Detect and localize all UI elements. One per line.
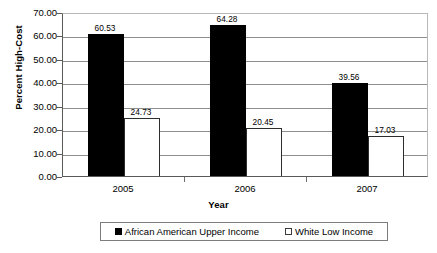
bar-value-label: 20.45: [235, 118, 291, 126]
plot-area: [62, 13, 428, 177]
bar-value-label: 39.56: [321, 73, 377, 81]
y-tick-label: 0.00: [11, 172, 57, 182]
bar-2007-series-1: [368, 136, 404, 176]
bar-value-label: 60.53: [77, 24, 133, 32]
y-tick-label: 30.00: [11, 102, 57, 112]
x-category-label-2005: 2005: [62, 183, 184, 194]
x-category-label-2007: 2007: [306, 183, 428, 194]
bar-2006-series-0: [210, 25, 246, 176]
x-axis-title: Year: [0, 199, 437, 210]
y-tick-label: 60.00: [11, 31, 57, 41]
legend-entry-0: African American Upper Income: [115, 226, 259, 237]
y-tick-label: 70.00: [11, 8, 57, 18]
bar-value-label: 64.28: [199, 15, 255, 23]
legend-label: African American Upper Income: [125, 226, 259, 237]
bar-2006-series-1: [246, 128, 282, 176]
x-category-label-2006: 2006: [184, 183, 306, 194]
x-separator-tick: [306, 177, 307, 182]
y-tick-label: 40.00: [11, 78, 57, 88]
bar-2005-series-1: [124, 118, 160, 176]
x-separator-tick: [184, 177, 185, 182]
legend-entry-1: White Low Income: [285, 226, 373, 237]
hollow-square-icon: [285, 228, 292, 235]
y-tick-label: 10.00: [11, 149, 57, 159]
bar-chart: Percent High-Cost 70.0060.0050.0040.0030…: [0, 0, 437, 253]
y-tick-label: 20.00: [11, 125, 57, 135]
legend-label: White Low Income: [295, 226, 373, 237]
chart-legend: African American Upper IncomeWhite Low I…: [100, 222, 388, 241]
y-tick-mark: [56, 177, 62, 178]
filled-square-icon: [115, 228, 122, 235]
bar-2005-series-0: [88, 34, 124, 176]
bar-value-label: 24.73: [113, 108, 169, 116]
bar-value-label: 17.03: [357, 126, 413, 134]
y-tick-label: 50.00: [11, 55, 57, 65]
